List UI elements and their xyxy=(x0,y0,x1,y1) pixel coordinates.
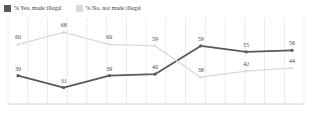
data-label: 60 xyxy=(106,34,112,40)
data-point[interactable] xyxy=(153,73,156,76)
data-label: 55 xyxy=(243,42,249,48)
data-label: 59 xyxy=(152,36,158,42)
data-label: 40 xyxy=(152,64,158,70)
data-label: 60 xyxy=(15,34,21,40)
legend-item-yes: % Yes, made illegal xyxy=(4,4,62,12)
data-point[interactable] xyxy=(245,50,248,53)
data-label: 31 xyxy=(61,78,67,84)
data-label: 68 xyxy=(61,22,67,28)
data-point[interactable] xyxy=(17,43,20,46)
data-label: 42 xyxy=(243,61,249,67)
data-point[interactable] xyxy=(62,31,65,34)
data-point[interactable] xyxy=(199,44,202,47)
square-swatch-light-icon xyxy=(76,5,83,12)
square-swatch-dark-icon xyxy=(4,5,11,12)
data-point[interactable] xyxy=(62,86,65,89)
data-point[interactable] xyxy=(108,74,111,77)
data-label: 38 xyxy=(198,67,204,73)
chart-legend: % Yes, made illegal % No, not made illeg… xyxy=(4,2,141,14)
data-label: 39 xyxy=(15,66,21,72)
chart-canvas: 3931394059555660686059384244 xyxy=(0,16,312,120)
data-point[interactable] xyxy=(291,67,294,70)
data-point[interactable] xyxy=(108,43,111,46)
data-label: 59 xyxy=(198,36,204,42)
legend-item-no: % No, not made illegal xyxy=(76,4,142,12)
data-point[interactable] xyxy=(16,74,19,77)
chart-gridlines xyxy=(8,18,304,104)
data-point[interactable] xyxy=(290,49,293,52)
legend-label-no: % No, not made illegal xyxy=(86,4,142,12)
data-point[interactable] xyxy=(245,70,248,73)
data-label: 44 xyxy=(289,58,295,64)
data-label: 39 xyxy=(106,66,112,72)
line-chart-plot: 3931394059555660686059384244 xyxy=(0,16,312,120)
data-label: 56 xyxy=(289,40,295,46)
data-point[interactable] xyxy=(199,76,202,79)
data-point[interactable] xyxy=(154,45,157,48)
legend-label-yes: % Yes, made illegal xyxy=(14,4,62,12)
